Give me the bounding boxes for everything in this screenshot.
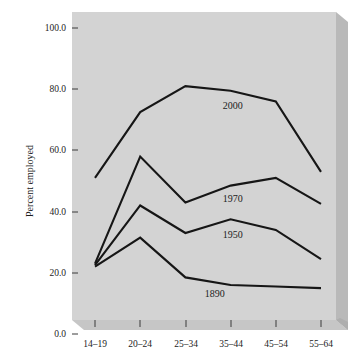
y-axis-title: Percent employed — [24, 145, 35, 217]
panel-bevel-bottom — [72, 320, 348, 330]
employment-line-chart: 100.0 80.0 60.0 40.0 20.0 0.0 Percent em… — [0, 0, 364, 364]
series-annotation-1950: 1950 — [223, 229, 243, 240]
y-tick-label-0: 0.0 — [54, 329, 66, 339]
panel-bevel-right — [336, 12, 348, 330]
y-tick-label-40: 40.0 — [49, 207, 66, 217]
series-annotation-1970: 1970 — [223, 193, 243, 204]
y-tick-label-80: 80.0 — [49, 84, 66, 94]
y-tick-label-100: 100.0 — [45, 23, 67, 33]
x-tick-label-35-44: 35–44 — [219, 339, 243, 349]
x-tick-label-55-64: 55–64 — [309, 339, 333, 349]
x-tick-label-14-19: 14–19 — [83, 339, 107, 349]
series-annotation-1890: 1890 — [205, 288, 225, 299]
y-tick-label-20: 20.0 — [49, 268, 66, 278]
y-tick-label-60: 60.0 — [49, 145, 66, 155]
x-tick-label-20-24: 20–24 — [128, 339, 152, 349]
x-tick-label-45-54: 45–54 — [264, 339, 288, 349]
series-annotation-2000: 2000 — [223, 100, 243, 111]
chart-figure: 100.0 80.0 60.0 40.0 20.0 0.0 Percent em… — [0, 0, 364, 364]
plot-area-background — [72, 12, 336, 320]
x-tick-label-25-34: 25–34 — [174, 339, 198, 349]
